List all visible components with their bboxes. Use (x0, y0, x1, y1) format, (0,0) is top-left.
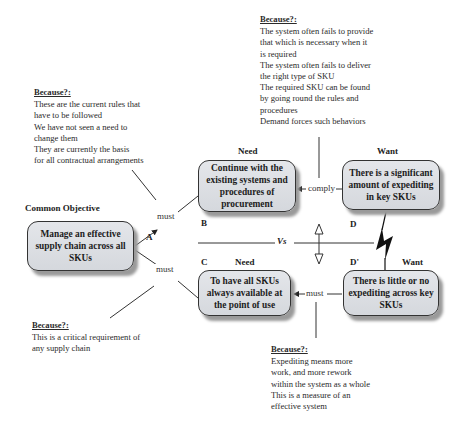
assumption-ab-line: change them (34, 133, 144, 144)
double-headed-arrow-icon (315, 224, 323, 264)
want-d-letter: D (350, 219, 357, 229)
want-box-dprime: There is little or no expediting across … (343, 270, 439, 316)
assumption-bd-line: The required SKU can be found (260, 82, 373, 93)
assumption-ab-line: We have not seen a need to (34, 122, 144, 133)
connector-must-cd: must (305, 288, 325, 298)
assumption-cd-line: effective system (271, 401, 370, 412)
assumption-bd-line: Demand forces such behaviors (260, 116, 373, 127)
objective-heading: Common Objective (25, 203, 100, 213)
assumption-cd: Because?: Expediting means more work, an… (271, 344, 370, 412)
assumption-cd-heading: Because?: (271, 344, 370, 355)
assumption-bd-line: The system often fails to provide (260, 26, 373, 37)
want-dprime-heading: Want (402, 257, 423, 267)
versus-label: Vs (277, 236, 287, 246)
connector-lines (0, 0, 465, 428)
line-a-must-c (135, 250, 157, 265)
assumption-bd-line: The system often fails to deliver (260, 60, 373, 71)
need-b-heading: Need (238, 146, 258, 156)
assumption-ac-heading: Because?: (32, 320, 140, 331)
want-box-d: There is a significant amount of expedit… (342, 160, 440, 210)
connector-must-ac: must (155, 264, 175, 274)
assumption-bd-line: that which is necessary when it (260, 37, 373, 48)
assumption-cd-line: Expediting means more (271, 356, 370, 367)
objective-box-a: Manage an effective supply chain across … (27, 221, 134, 271)
connector-must-ab: must (156, 211, 176, 221)
assumption-ab-line: These are the current rules that (34, 99, 144, 110)
pointer-assumption-ab (132, 170, 156, 200)
lightning-bolt-icon (376, 212, 393, 272)
assumption-ab-heading: Because?: (34, 87, 144, 98)
need-c-letter: C (201, 257, 208, 267)
line-must-to-c (178, 281, 198, 298)
line-must-to-b (178, 196, 198, 212)
assumption-cd-line: within the system as a whole (271, 379, 370, 390)
assumption-bd-line: by going round the rules and (260, 93, 373, 104)
assumption-ab-line: for all contractual arrangements (34, 155, 144, 166)
assumption-ab: Because?: These are the current rules th… (34, 87, 144, 166)
assumption-cd-line: This is a measure of an (271, 390, 370, 401)
need-box-c: To have all SKUs always available at the… (198, 270, 291, 316)
assumption-ac-line: any supply chain (32, 343, 140, 354)
assumption-ac-line: This is a critical requirement of (32, 332, 140, 343)
objective-letter: A (146, 232, 153, 242)
want-d-heading: Want (377, 146, 398, 156)
need-box-b: Continue with the existing systems and p… (198, 160, 296, 212)
need-c-heading: Need (235, 257, 255, 267)
assumption-bd: Because?: The system often fails to prov… (260, 14, 373, 127)
assumption-bd-heading: Because?: (260, 14, 373, 25)
assumption-cd-line: work, and more rework (271, 367, 370, 378)
assumption-bd-line: procedures (260, 105, 373, 116)
assumption-ac: Because?: This is a critical requirement… (32, 320, 140, 355)
want-dprime-letter: D' (350, 257, 359, 267)
assumption-bd-line: the right type of SKU (260, 71, 373, 82)
assumption-bd-line: is required (260, 49, 373, 60)
need-b-letter: B (201, 218, 207, 228)
pointer-assumption-ac (110, 286, 154, 318)
connector-comply: comply (307, 183, 336, 193)
assumption-ab-line: They are currently the basis (34, 144, 144, 155)
assumption-ab-line: have to be followed (34, 110, 144, 121)
